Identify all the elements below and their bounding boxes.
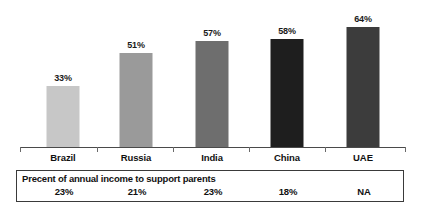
- bar-group-2: 57%: [181, 0, 243, 150]
- bar-rect[interactable]: [196, 41, 229, 147]
- category-label-india: India: [181, 152, 243, 163]
- note-value-brazil: 23%: [33, 186, 95, 197]
- category-label-brazil: Brazil: [32, 152, 94, 163]
- note-value-china: 18%: [257, 186, 319, 197]
- bar-rect[interactable]: [47, 86, 80, 147]
- bar-group-3: 58%: [256, 0, 318, 150]
- bar-rect[interactable]: [120, 53, 153, 147]
- bar-rect[interactable]: [271, 39, 304, 147]
- bar-value-label: 64%: [354, 14, 371, 24]
- category-label-uae: UAE: [332, 152, 394, 163]
- note-value-uae: NA: [333, 186, 395, 197]
- bar-value-label: 58%: [278, 26, 295, 36]
- bar-value-label: 57%: [203, 28, 220, 38]
- note-box-title: Precent of annual income to support pare…: [22, 173, 216, 184]
- category-label-russia: Russia: [105, 152, 167, 163]
- category-label-china: China: [256, 152, 318, 163]
- category-axis-labels: Brazil Russia India China UAE: [0, 152, 422, 168]
- plot-area: 33% 51% 57% 58% 64%: [0, 0, 422, 150]
- bar-group-1: 51%: [105, 0, 167, 150]
- bar-chart: 33% 51% 57% 58% 64% Brazil Russia India: [0, 0, 422, 216]
- bar-group-4: 64%: [332, 0, 394, 150]
- x-axis-line: [20, 147, 406, 148]
- note-value-russia: 21%: [106, 186, 168, 197]
- note-box-values: 23% 21% 23% 18% NA: [17, 186, 403, 200]
- note-value-india: 23%: [182, 186, 244, 197]
- bar-group-0: 33%: [32, 0, 94, 150]
- note-box: Precent of annual income to support pare…: [16, 170, 404, 202]
- bar-value-label: 33%: [54, 73, 71, 83]
- bar-rect[interactable]: [347, 27, 380, 147]
- bar-value-label: 51%: [127, 40, 144, 50]
